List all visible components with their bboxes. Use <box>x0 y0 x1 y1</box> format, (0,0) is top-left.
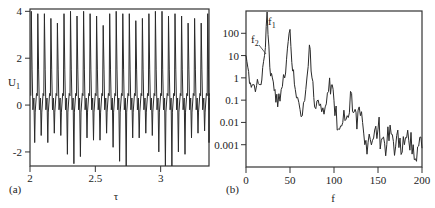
x-tick-label: 3 <box>158 172 164 184</box>
y-tick-label: 2 <box>17 52 23 64</box>
y-tick-label: 100 <box>223 27 240 39</box>
panel-a-x-ticks: 22.53 <box>27 166 164 184</box>
panel-a: -2024 22.53 U1 (a) τ <box>8 5 209 202</box>
y-tick-label: 4 <box>17 5 23 17</box>
y-tick-label: 0.01 <box>220 116 239 128</box>
annotation-f2: f2 <box>251 33 259 48</box>
panel-b-spectrum-trace <box>246 12 422 161</box>
panel-b-xlabel: f <box>331 192 335 204</box>
x-tick-label: 2.5 <box>88 172 102 184</box>
panel-b: 0.0010.010.1110100 050100150200 f1 f2 (b… <box>214 11 431 204</box>
y-tick-label: -2 <box>13 146 22 158</box>
x-tick-label: 50 <box>285 174 297 186</box>
panel-a-xlabel: τ <box>114 190 119 202</box>
x-tick-label: 150 <box>370 174 387 186</box>
x-tick-label: 2 <box>27 172 33 184</box>
panel-b-y-ticks: 0.0010.010.1110100 <box>214 27 246 150</box>
panel-a-label: (a) <box>9 183 22 196</box>
x-tick-label: 0 <box>243 174 249 186</box>
panel-a-ylabel: U1 <box>8 76 20 91</box>
y-tick-label: 1 <box>234 72 240 84</box>
panel-b-label: (b) <box>226 183 239 196</box>
panel-a-signal-trace <box>31 11 209 166</box>
y-tick-label: 0.1 <box>225 94 239 106</box>
x-tick-label: 200 <box>414 174 431 186</box>
y-tick-label: 0 <box>17 99 23 111</box>
annotation-f1: f1 <box>268 15 276 30</box>
y-tick-label: 0.001 <box>214 139 239 151</box>
panel-b-x-ticks: 050100150200 <box>243 167 431 186</box>
x-tick-label: 100 <box>326 174 343 186</box>
y-tick-label: 10 <box>228 50 240 62</box>
figure: -2024 22.53 U1 (a) τ 0.0010.010.1110100 … <box>0 0 435 208</box>
